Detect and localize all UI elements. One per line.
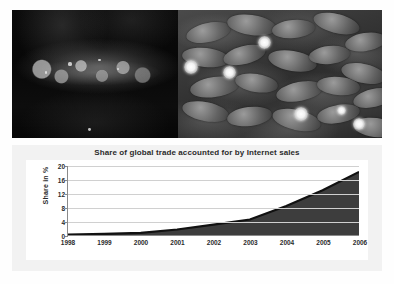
area-series (68, 166, 359, 235)
water-highlight (88, 128, 91, 131)
photo-pond-lilypads (12, 10, 178, 138)
lily-bloom (353, 118, 365, 130)
photo-collage (12, 10, 382, 138)
y-tick-label: 12 (58, 191, 65, 198)
lily-bloom (184, 60, 198, 74)
y-tick-label: 16 (58, 177, 65, 184)
x-tick-label: 2001 (170, 239, 184, 246)
y-tick-mark (65, 180, 68, 181)
x-tick-label: 2000 (134, 239, 148, 246)
water-highlight (98, 59, 100, 61)
lily-bloom (258, 36, 271, 49)
x-tick-label: 1998 (61, 239, 75, 246)
photo-waterlilies (178, 10, 382, 138)
x-tick-label: 1999 (97, 239, 111, 246)
water-highlight (68, 62, 71, 65)
x-tick-label: 2005 (316, 239, 330, 246)
x-tick-label: 2002 (207, 239, 221, 246)
y-tick-mark (65, 166, 68, 167)
water-highlight (117, 68, 119, 70)
grid-line (68, 208, 359, 209)
x-tick-label: 2004 (280, 239, 294, 246)
y-tick-mark (65, 236, 68, 237)
y-tick-mark (65, 194, 68, 195)
x-tick-label: 2006 (353, 239, 367, 246)
y-tick-label: 4 (61, 219, 65, 226)
y-tick-label: 20 (58, 163, 65, 170)
y-tick-mark (65, 208, 68, 209)
y-tick-label: 8 (61, 205, 65, 212)
y-axis-label: Share in % (42, 158, 49, 214)
chart-title: Share of global trade accounted for by I… (12, 148, 382, 157)
grid-line (68, 180, 359, 181)
grid-line (68, 166, 359, 167)
grid-line (68, 194, 359, 195)
y-tick-mark (65, 222, 68, 223)
x-tick-label: 2003 (243, 239, 257, 246)
chart-panel: Share of global trade accounted for by I… (12, 145, 382, 271)
screenshot-root: Share of global trade accounted for by I… (0, 0, 394, 284)
grid-line (68, 222, 359, 223)
chart-plot-area-frame: Share in % 04812162019981999200020012002… (26, 160, 368, 260)
chart-plot: 0481216201998199920002001200220032004200… (67, 166, 359, 236)
